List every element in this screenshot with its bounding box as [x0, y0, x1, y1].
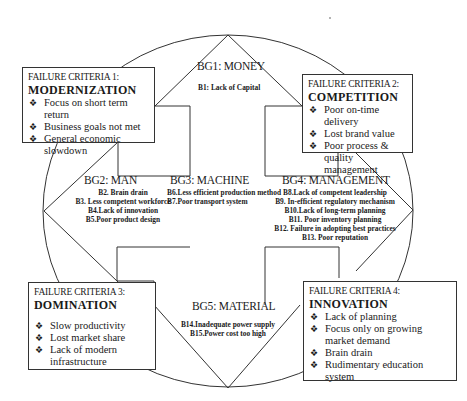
- criteria-bullet: ❖Business goals not met: [28, 121, 149, 133]
- failure-criteria-2-box: FAILURE CRITERIA 2: COMPETITION ❖Poor on…: [302, 74, 413, 153]
- criteria-bullet: ❖Lost market share: [34, 332, 150, 344]
- bg4-items: B8.Lack of competent leadership B9. In-e…: [255, 188, 415, 242]
- criteria-bullet: ❖Poor process & quality management: [308, 140, 407, 176]
- criteria-bullet: ❖Rudimentary education system: [309, 359, 451, 383]
- bg4-management-label: BG4: MANAGEMENT: [282, 174, 390, 186]
- bg4-item: B10.Lack of long-term planning: [255, 206, 415, 215]
- bg2-item: B4.Lack of innovation: [60, 206, 186, 215]
- bg4-item: B8.Lack of competent leadership: [255, 188, 415, 197]
- criteria-bullet: ❖Lack of modern infrastructure: [34, 344, 150, 368]
- criteria-bullet: ❖Lost brand value: [308, 128, 407, 140]
- bg2-man-label: BG2: MAN: [84, 174, 137, 186]
- diamond-bullet-icon: ❖: [310, 359, 318, 371]
- criteria-bullet: ❖Slow productivity: [34, 320, 150, 332]
- criteria-bullet: ❖Lack of planning: [309, 311, 451, 323]
- failure-criteria-4-box: FAILURE CRITERIA 4: INNOVATION ❖Lack of …: [303, 281, 457, 381]
- bg4-item: B13. Poor reputation: [255, 233, 415, 242]
- bg3-machine-label: BG3: MACHINE: [170, 174, 249, 186]
- diamond-bullet-icon: ❖: [35, 332, 43, 344]
- bg5-item: B14.Inadequate power supply: [168, 320, 288, 329]
- diamond-bullet-icon: ❖: [29, 121, 37, 133]
- criteria-bullet: ❖Poor on-time delivery: [308, 104, 407, 128]
- bg5-material-label: BG5: MATERIAL: [192, 300, 275, 312]
- criteria-heading: FAILURE CRITERIA 1:: [28, 71, 149, 83]
- criteria-title: MODERNIZATION: [28, 83, 149, 97]
- diamond-bullet-icon: ❖: [310, 347, 318, 359]
- diamond-bullet-icon: ❖: [35, 344, 43, 356]
- diamond-bullet-icon: ❖: [309, 104, 317, 116]
- failure-criteria-3-box: FAILURE CRITERIA 3: DOMINATION ❖Slow pro…: [28, 282, 156, 370]
- criteria-bullet: ❖General economic slowdown: [28, 133, 149, 157]
- criteria-heading: FAILURE CRITERIA 2:: [308, 78, 407, 90]
- bg2-item: B5.Poor product design: [60, 215, 186, 224]
- bg1-item: B1: Lack of Capital: [198, 83, 260, 92]
- diamond-bullet-icon: ❖: [310, 311, 318, 323]
- criteria-title: DOMINATION: [34, 298, 150, 312]
- diamond-bullet-icon: ❖: [310, 323, 318, 335]
- failure-criteria-1-box: FAILURE CRITERIA 1: MODERNIZATION ❖Focus…: [22, 67, 155, 143]
- bg4-item: B11. Poor inventory planning: [255, 215, 415, 224]
- diamond-bullet-icon: ❖: [309, 140, 317, 152]
- bg5-item: B15.Power cost too high: [168, 329, 288, 338]
- bg1-money-label: BG1: MONEY: [197, 60, 265, 72]
- criteria-bullet: ❖Focus only on growing market demand: [309, 323, 451, 347]
- criteria-heading: FAILURE CRITERIA 3:: [34, 286, 150, 298]
- bg4-item: B12. Failure in adopting best practices: [255, 224, 415, 233]
- diamond-bullet-icon: ❖: [29, 97, 37, 109]
- diamond-bullet-icon: ❖: [29, 133, 37, 145]
- criteria-heading: FAILURE CRITERIA 4:: [309, 285, 451, 297]
- diamond-bullet-icon: ❖: [309, 128, 317, 140]
- bottom-arrow: [154, 305, 300, 388]
- criteria-title: COMPETITION: [308, 90, 407, 104]
- bg3-item: B7.Poor transport system: [167, 197, 248, 206]
- diamond-bullet-icon: ❖: [35, 320, 43, 332]
- bg5-items: B14.Inadequate power supply B15.Power co…: [168, 320, 288, 338]
- criteria-bullet: ❖Focus on short term return: [28, 97, 149, 121]
- criteria-title: INNOVATION: [309, 297, 451, 311]
- bg4-item: B9. In-efficient regulatory mechanism: [255, 197, 415, 206]
- criteria-bullet: ❖Brain drain: [309, 347, 451, 359]
